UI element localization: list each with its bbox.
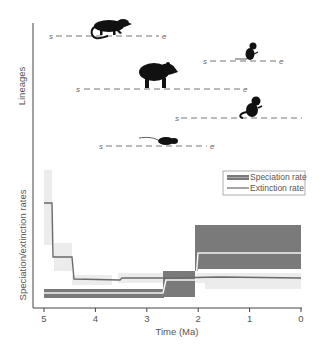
- figure: Lineages s e s e s e: [0, 0, 323, 352]
- legend-extinction-label: Extinction rate: [250, 183, 304, 193]
- legend-speciation-label: Speciation rate: [250, 172, 307, 182]
- lineage-opossum: s e: [49, 19, 167, 41]
- rates-axis-label: Speciation/extinction rates: [17, 189, 28, 300]
- end-label: e: [210, 142, 215, 151]
- lineage-rat: s e: [99, 137, 215, 151]
- lineages-axis-label: Lineages: [16, 66, 27, 105]
- rat-icon: [139, 137, 178, 145]
- x-tick-label: 1: [247, 313, 252, 324]
- end-label: e: [243, 85, 248, 94]
- legend: Speciation rate Extinction rate: [223, 171, 307, 195]
- start-label: s: [76, 85, 80, 94]
- lineage-capybara: s e: [76, 62, 248, 94]
- squirrel-icon: [240, 97, 262, 119]
- start-label: s: [99, 142, 103, 151]
- x-tick-label: 4: [93, 313, 98, 324]
- x-tick-label: 3: [144, 313, 149, 324]
- x-axis-title: Time (Ma): [156, 326, 199, 337]
- lineage-squirrel: s: [175, 97, 302, 124]
- x-tick-label: 5: [41, 313, 46, 324]
- small-rodent-icon: [235, 43, 258, 61]
- lineage-small-rodent: s e: [203, 43, 284, 67]
- x-tick-label: 2: [196, 313, 201, 324]
- opossum-icon: [92, 19, 132, 38]
- capybara-icon: [139, 62, 178, 88]
- start-label: s: [49, 32, 53, 41]
- end-label: e: [279, 57, 284, 66]
- x-axis: 5 4 3 2 1 0 Time (Ma): [33, 308, 304, 337]
- start-label: s: [175, 114, 179, 123]
- start-label: s: [203, 57, 207, 66]
- x-tick-label: 0: [298, 313, 303, 324]
- end-label: e: [162, 32, 167, 41]
